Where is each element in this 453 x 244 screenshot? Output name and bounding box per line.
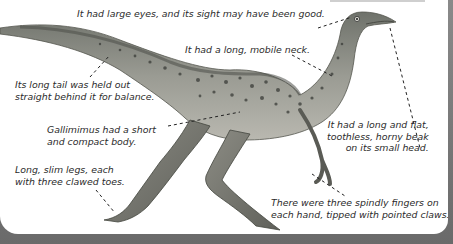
label-legs-line-2: with three clawed toes. [15,176,125,188]
label-beak-line-1: It had a long and flat, [327,119,429,131]
front-leg [206,130,280,230]
label-tail-line-2: straight behind it for balance. [15,91,154,103]
label-fingers-line-2: each hand, tipped with pointed claws. [271,209,448,221]
label-neck: It had a long, mobile neck. [185,44,310,56]
label-legs: Long, slim legs, each with three clawed … [15,164,125,187]
label-beak: It had a long and flat, toothless, horny… [327,119,429,154]
label-eyes-line-1: It had large eyes, and its sight may hav… [77,8,325,20]
label-eyes: It had large eyes, and its sight may hav… [77,8,325,20]
label-tail-line-1: Its long tail was held out [15,79,154,91]
label-body-line-1: Gallimimus had a short [47,124,156,136]
label-body: Gallimimus had a short and compact body. [47,124,156,147]
label-tail: Its long tail was held out straight behi… [15,79,154,102]
label-beak-line-2: toothless, horny beak [327,131,429,143]
label-neck-line-1: It had a long, mobile neck. [185,44,310,56]
illustration-page: It had large eyes, and its sight may hav… [0,0,448,234]
label-body-line-2: and compact body. [47,136,156,148]
label-legs-line-1: Long, slim legs, each [15,164,125,176]
label-fingers: There were three spindly fingers on each… [271,197,448,220]
label-beak-line-3: on its small head. [327,142,429,154]
label-fingers-line-1: There were three spindly fingers on [271,197,448,209]
